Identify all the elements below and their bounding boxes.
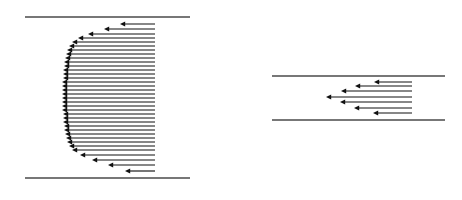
flow-arrow-head (108, 163, 113, 168)
flow-arrow-head (374, 80, 379, 85)
flow-arrow (64, 60, 155, 65)
flow-arrow (88, 32, 155, 37)
flow-arrow (63, 116, 155, 121)
flow-arrow (72, 40, 155, 45)
velocity-profile-figure (0, 0, 462, 200)
flow-arrow (65, 56, 155, 61)
flow-arrow (69, 144, 155, 149)
flow-arrow (125, 169, 155, 174)
flow-arrow (66, 136, 155, 141)
flow-arrow-head (62, 92, 67, 97)
flow-arrow-head (67, 48, 72, 53)
flow-arrow-head (66, 52, 71, 57)
figure-canvas (0, 0, 462, 200)
flow-arrow-head (354, 106, 359, 111)
flow-arrow (69, 44, 155, 49)
flow-arrow (62, 100, 155, 105)
flow-arrow (62, 92, 155, 97)
flow-arrow-head (80, 153, 85, 158)
flow-arrow-head (63, 120, 68, 125)
flow-arrow-head (64, 128, 69, 133)
flow-arrow (65, 132, 155, 137)
flow-arrow (374, 80, 412, 85)
flow-arrow (63, 72, 155, 77)
flow-arrow (64, 128, 155, 133)
flow-arrow-head (340, 100, 345, 105)
flow-arrow-head (67, 140, 72, 145)
flow-arrow-head (120, 22, 125, 27)
flow-arrow-head (88, 32, 93, 37)
flow-arrow-head (341, 89, 346, 94)
panel-laminar-velocity-profile (272, 76, 445, 120)
flow-arrow-head (125, 169, 130, 174)
flow-arrow (63, 76, 155, 81)
flow-arrow-head (62, 108, 67, 113)
flow-arrow-head (62, 104, 67, 109)
flow-arrow (62, 84, 155, 89)
flow-arrow-head (65, 132, 70, 137)
flow-arrow (78, 36, 155, 41)
flow-arrow (92, 158, 155, 163)
flow-arrow (62, 80, 155, 85)
flow-arrow-head (355, 84, 360, 89)
flow-arrow-head (63, 76, 68, 81)
flow-arrow (63, 120, 155, 125)
flow-arrow-head (63, 116, 68, 121)
flow-arrow-head (64, 60, 69, 65)
flow-arrow-head (63, 72, 68, 77)
flow-arrow-head (66, 136, 71, 141)
flow-arrow-head (62, 84, 67, 89)
flow-arrow (355, 84, 412, 89)
flow-arrow-head (63, 112, 68, 117)
flow-arrow (63, 112, 155, 117)
flow-arrow-head (72, 40, 77, 45)
flow-arrow-head (62, 96, 67, 101)
flow-arrow-head (92, 158, 97, 163)
flow-arrow-head (62, 100, 67, 105)
flow-arrow-head (373, 111, 378, 116)
flow-arrow-head (69, 144, 74, 149)
flow-arrow (72, 148, 155, 153)
flow-arrow-head (72, 148, 77, 153)
flow-arrow (64, 124, 155, 129)
flow-arrow (373, 111, 412, 116)
flow-arrow-head (104, 27, 109, 32)
flow-arrow (62, 88, 155, 93)
flow-arrow (354, 106, 412, 111)
flow-arrow (67, 140, 155, 145)
flow-arrow-head (62, 88, 67, 93)
flow-arrow-head (326, 95, 331, 100)
flow-arrow (66, 52, 155, 57)
flow-arrow-head (62, 80, 67, 85)
flow-arrow (120, 22, 155, 27)
panel-turbulent-velocity-profile (25, 17, 190, 178)
flow-arrow-head (64, 64, 69, 69)
flow-arrow (104, 27, 155, 32)
flow-arrow (62, 108, 155, 113)
flow-arrow-head (69, 44, 74, 49)
flow-arrow (341, 89, 412, 94)
flow-arrow (67, 48, 155, 53)
flow-arrow-head (78, 36, 83, 41)
flow-arrow (62, 104, 155, 109)
flow-arrow (62, 96, 155, 101)
flow-arrow-head (63, 68, 68, 73)
flow-arrow (64, 64, 155, 69)
flow-arrow-head (64, 124, 69, 129)
flow-arrow (63, 68, 155, 73)
flow-arrow-head (65, 56, 70, 61)
flow-arrow (80, 153, 155, 158)
flow-arrow (108, 163, 155, 168)
flow-arrow (326, 95, 412, 100)
flow-arrow (340, 100, 412, 105)
